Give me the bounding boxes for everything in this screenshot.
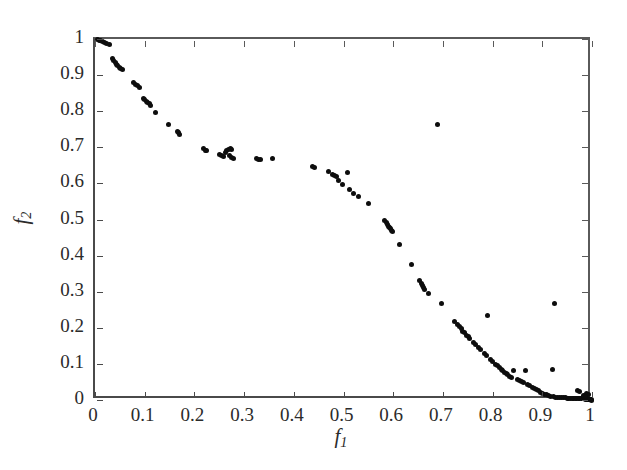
y-tick-mark	[97, 75, 103, 76]
data-point	[254, 156, 259, 161]
x-tick-mark	[542, 392, 543, 398]
x-tick-mark-top	[294, 41, 295, 47]
data-point	[270, 156, 275, 161]
data-point	[573, 396, 578, 401]
data-point	[115, 63, 120, 68]
y-tick-mark	[97, 364, 103, 365]
data-point	[471, 340, 476, 345]
data-point	[334, 174, 339, 179]
data-point	[574, 396, 579, 401]
y-tick-label: 0.2	[42, 315, 84, 337]
data-point	[462, 330, 467, 335]
x-tick-mark-top	[493, 41, 494, 47]
data-point	[561, 395, 566, 400]
data-points-layer	[95, 39, 588, 396]
data-point	[426, 291, 431, 296]
data-point	[502, 370, 507, 375]
x-tick-label: 0.4	[280, 404, 304, 426]
data-point	[141, 96, 146, 101]
y-tick-mark-right	[582, 111, 588, 112]
x-tick-label: 0.5	[330, 404, 354, 426]
data-point	[485, 313, 490, 318]
y-tick-label: 0.3	[42, 279, 84, 301]
data-point	[258, 157, 263, 162]
data-point	[221, 154, 226, 159]
x-tick-label: 1	[585, 404, 595, 426]
data-point	[519, 379, 524, 384]
data-point	[417, 278, 422, 283]
data-point	[557, 395, 562, 400]
x-tick-mark-top	[95, 41, 96, 47]
data-point	[144, 99, 149, 104]
data-point	[464, 333, 469, 338]
x-tick-label: 0.8	[479, 404, 503, 426]
data-point	[493, 362, 498, 367]
data-point	[581, 393, 586, 398]
data-point	[382, 218, 387, 223]
data-point	[312, 165, 317, 170]
x-axis-title-subscript: 1	[340, 434, 347, 450]
scatter-plot-figure: 00.10.20.30.40.50.60.70.80.91 00.10.20.3…	[0, 0, 627, 470]
data-point	[332, 173, 337, 178]
data-point	[577, 389, 582, 394]
data-point	[439, 301, 444, 306]
y-axis-title-subscript: 2	[18, 212, 34, 219]
data-point	[409, 262, 414, 267]
data-point	[175, 129, 180, 134]
data-point	[563, 395, 568, 400]
y-tick-mark-right	[582, 39, 588, 40]
data-point	[177, 132, 182, 137]
data-point	[345, 170, 350, 175]
x-tick-mark-top	[145, 41, 146, 47]
data-point	[145, 100, 150, 105]
data-point	[478, 347, 483, 352]
data-point	[421, 285, 426, 290]
y-tick-label: 0.4	[42, 243, 84, 265]
y-tick-mark-right	[582, 220, 588, 221]
x-tick-label: 0.2	[181, 404, 205, 426]
data-point	[107, 42, 112, 47]
data-point	[384, 220, 389, 225]
data-point	[559, 395, 564, 400]
x-tick-mark-top	[443, 41, 444, 47]
data-point	[575, 388, 580, 393]
x-tick-mark	[145, 392, 146, 398]
y-tick-label: 0.1	[42, 351, 84, 373]
x-tick-label: 0.1	[131, 404, 155, 426]
x-tick-mark	[194, 392, 195, 398]
data-point	[457, 324, 462, 329]
data-point	[536, 388, 541, 393]
data-point	[490, 359, 495, 364]
data-point	[388, 226, 393, 231]
data-point	[584, 391, 589, 396]
data-point	[507, 374, 512, 379]
data-point	[148, 103, 153, 108]
y-tick-label: 0.7	[42, 134, 84, 156]
data-point	[104, 41, 109, 46]
y-tick-mark	[97, 292, 103, 293]
y-tick-mark-right	[582, 147, 588, 148]
data-point	[586, 392, 591, 397]
data-point	[142, 97, 147, 102]
x-tick-label: 0	[88, 404, 98, 426]
y-tick-label: 0.8	[42, 98, 84, 120]
data-point	[176, 130, 181, 135]
x-tick-mark	[95, 392, 96, 398]
y-tick-mark-right	[582, 75, 588, 76]
x-tick-mark-top	[542, 41, 543, 47]
y-tick-mark	[97, 111, 103, 112]
x-axis-title: f1	[335, 424, 348, 451]
data-point	[459, 326, 464, 331]
data-point	[228, 146, 233, 151]
data-point	[544, 392, 549, 397]
data-point	[473, 342, 478, 347]
data-point	[420, 283, 425, 288]
data-point	[204, 148, 209, 153]
data-point	[515, 377, 520, 382]
data-point	[135, 83, 140, 88]
plot-area	[93, 37, 590, 398]
y-tick-mark-right	[582, 256, 588, 257]
data-point	[356, 194, 361, 199]
data-point	[110, 56, 115, 61]
y-tick-mark-right	[582, 292, 588, 293]
